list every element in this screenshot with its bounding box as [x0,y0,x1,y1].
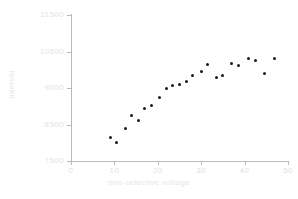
scatter-chart-figure: 1150010500950085007500 01020304050 non-s… [0,0,298,199]
data-point [130,114,133,117]
y-axis-title: interval [7,55,16,115]
x-tick-label: 30 [186,166,216,175]
x-tick-label: 50 [273,166,298,175]
data-point [200,70,203,73]
x-tick-mark [114,161,115,165]
data-point [206,63,209,66]
x-tick-label: 40 [230,166,260,175]
x-tick-mark [288,161,289,165]
data-point [158,96,161,99]
x-tick-label: 20 [143,166,173,175]
y-tick-label: 7500 [24,156,64,165]
x-tick-mark [158,161,159,165]
data-point [178,83,181,86]
data-point [137,119,140,122]
data-point [115,141,118,144]
data-point [263,72,266,75]
data-point [237,64,240,67]
data-point [191,74,194,77]
x-axis-title: non-selective voltage [0,178,298,187]
data-point [150,104,153,107]
y-tick-label: 9500 [24,83,64,92]
data-point [165,87,168,90]
x-tick-mark [71,161,72,165]
data-point [221,74,224,77]
data-point [171,84,174,87]
data-point [109,136,112,139]
data-point [215,76,218,79]
data-point [273,57,276,60]
plot-area [71,14,288,161]
x-tick-label: 10 [99,166,129,175]
data-point [185,80,188,83]
data-point [247,57,250,60]
data-point [143,107,146,110]
data-point [230,62,233,65]
y-tick-label: 10500 [24,47,64,56]
x-tick-mark [201,161,202,165]
data-point [254,59,257,62]
x-tick-label: 0 [56,166,86,175]
x-axis-line [71,161,289,162]
data-point [124,127,127,130]
y-tick-label: 11500 [24,10,64,19]
x-tick-mark [245,161,246,165]
y-tick-label: 8500 [24,120,64,129]
